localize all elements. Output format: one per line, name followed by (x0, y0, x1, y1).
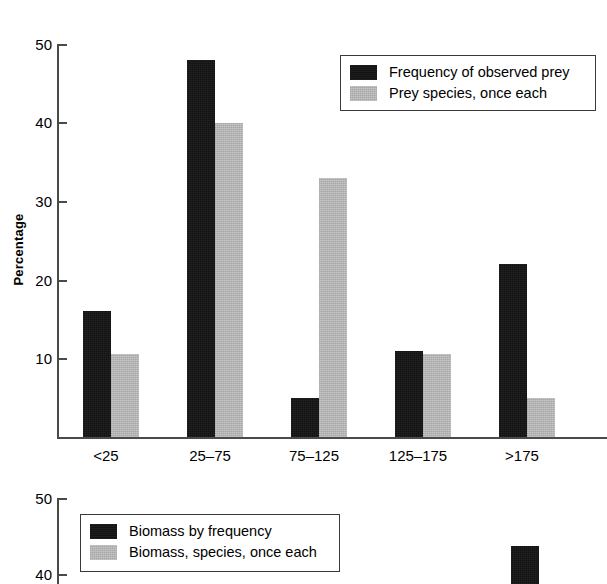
bar-dark-gt175 (499, 264, 527, 437)
legend-swatch-dark-icon (90, 524, 117, 539)
y-tick-label-40: 40 (18, 115, 52, 130)
x-tick-label-lt25: <25 (71, 448, 141, 463)
x-tick-label-gt175: >175 (487, 448, 557, 463)
bar-light-lt25 (111, 354, 139, 437)
y-tick-50-bottom (57, 498, 67, 500)
bar-dark-lt25 (83, 311, 111, 437)
y-tick-label-50: 50 (18, 37, 52, 52)
legend-label-biomass-species-once-each: Biomass, species, once each (129, 545, 317, 560)
y-tick-label-10: 10 (18, 351, 52, 366)
y-axis-line-bottom (57, 498, 59, 584)
y-tick-label-40-bottom: 40 (18, 567, 52, 582)
y-tick-label-20: 20 (18, 273, 52, 288)
x-tick-label-75-125: 75–125 (279, 448, 349, 463)
bar-dark-75-125 (291, 398, 319, 437)
bar-light-25-75 (215, 123, 243, 437)
y-tick-label-30: 30 (18, 194, 52, 209)
figure-container: Percentage 50 40 30 20 10 (0, 0, 607, 584)
x-tick-label-25-75: 25–75 (175, 448, 245, 463)
legend-swatch-light-icon (90, 545, 117, 560)
legend-item-biomass-by-frequency: Biomass by frequency (90, 521, 327, 542)
x-tick-label-125-175: 125–175 (383, 448, 453, 463)
legend-item-biomass-species-once-each: Biomass, species, once each (90, 542, 327, 563)
prey-frequency-chart: Percentage 50 40 30 20 10 (0, 0, 607, 470)
legend-item-frequency-of-observed-prey: Frequency of observed prey (350, 62, 583, 83)
bar-dark-25-75 (187, 60, 215, 437)
legend-swatch-light-icon (350, 86, 377, 101)
bar-light-75-125 (319, 178, 347, 437)
y-tick-label-50-bottom: 50 (18, 491, 52, 506)
legend-swatch-dark-icon (350, 65, 377, 80)
biomass-chart: 50 40 Biomass by frequency Biomass, spec… (0, 470, 607, 584)
legend-label-biomass-by-frequency: Biomass by frequency (129, 524, 272, 539)
legend-bottom: Biomass by frequency Biomass, species, o… (80, 514, 340, 572)
bar-light-125-175 (423, 354, 451, 437)
bar-light-gt175 (527, 398, 555, 437)
x-axis-line (57, 437, 607, 439)
legend: Frequency of observed prey Prey species,… (340, 55, 596, 111)
legend-label-prey-species-once-each: Prey species, once each (389, 86, 547, 101)
legend-label-frequency-of-observed-prey: Frequency of observed prey (389, 65, 570, 80)
y-tick-40-bottom (57, 574, 67, 576)
bar-dark-125-175 (395, 351, 423, 437)
bar-dark-biomass-gt175 (511, 546, 539, 584)
legend-item-prey-species-once-each: Prey species, once each (350, 83, 583, 104)
